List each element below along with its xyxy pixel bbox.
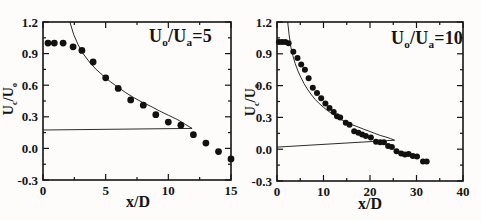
data-point [115, 85, 122, 92]
data-point [60, 40, 67, 47]
x-tick-label: 10 [162, 183, 175, 198]
data-point [45, 40, 52, 47]
x-tick-label: 30 [410, 184, 423, 199]
y-tick-label: -0.3 [251, 174, 272, 189]
y-tick-label: 0.3 [22, 109, 39, 124]
data-point [389, 144, 395, 150]
data-point [286, 40, 292, 46]
data-point [347, 122, 353, 128]
data-point [228, 156, 235, 163]
y-tick-label: 0.9 [256, 46, 273, 61]
data-point [215, 148, 222, 155]
plot-left-title: Uo/Ua=5 [149, 26, 212, 48]
data-point [152, 111, 159, 118]
plot-left-ylabel: Uc/Uo [1, 83, 18, 115]
y-tick-label: 0.9 [22, 46, 39, 61]
data-point [178, 122, 185, 129]
y-tick-label: 1.2 [256, 15, 272, 30]
data-point [306, 75, 312, 81]
data-point [414, 154, 420, 160]
plot-left-xlabel: x/D [126, 193, 150, 211]
data-point [79, 47, 86, 54]
model-curve [288, 22, 395, 140]
plot-right-ylabel: Uc/Uo [243, 84, 260, 116]
x-tick-label: 0 [274, 184, 281, 199]
x-tick-label: 0 [40, 183, 47, 198]
data-point [337, 114, 343, 120]
data-point [203, 140, 210, 147]
data-point [290, 49, 296, 55]
data-point [298, 61, 304, 67]
data-point [165, 119, 172, 126]
data-point [140, 102, 147, 109]
data-point [363, 133, 369, 139]
y-tick-label: -0.3 [17, 173, 38, 188]
data-point [314, 90, 320, 96]
y-tick-label: 0.0 [22, 141, 38, 156]
data-point [295, 55, 301, 61]
x-tick-label: 10 [317, 184, 330, 199]
y-tick-label: 0.6 [22, 78, 39, 93]
y-tick-label: 1.2 [22, 15, 38, 30]
data-point [70, 43, 77, 50]
data-point [51, 40, 58, 47]
closure-line [43, 128, 192, 130]
data-point [310, 85, 316, 91]
plot-right-title: Uo/Ua=10 [391, 28, 463, 50]
y-tick-label: 0.0 [256, 142, 272, 157]
x-tick-label: 15 [225, 183, 239, 198]
plot-right-xlabel: x/D [358, 195, 382, 213]
x-tick-label: 40 [457, 184, 470, 199]
data-point [302, 67, 308, 73]
figure: 051015-0.30.00.30.60.91.2010203040-0.30.… [0, 0, 481, 220]
data-point [102, 74, 109, 81]
data-point [368, 135, 374, 141]
x-tick-label: 5 [102, 183, 109, 198]
data-point [90, 59, 97, 66]
data-point [190, 131, 197, 138]
data-point [127, 97, 134, 104]
data-point [318, 95, 324, 101]
data-point [424, 158, 430, 164]
